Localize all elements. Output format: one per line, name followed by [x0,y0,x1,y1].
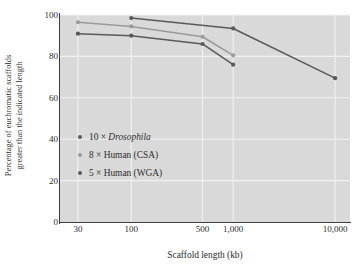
y-tick-label: 0 [32,217,58,227]
y-tick-label: 40 [32,134,58,144]
legend-item: 5 × Human (WGA) [78,164,228,182]
legend-marker-dot-icon [78,153,82,157]
y-tick-label: 20 [32,176,58,186]
x-axis-title: Scaffold length (kb) [60,250,350,260]
legend-item-label: 8 × Human (CSA) [89,150,158,160]
legend-item: 10 × Drosophila [78,128,228,146]
chart-figure: Percentage of euchromatic scaffolds grea… [0,0,359,272]
data-series-layer [60,15,350,222]
legend-item-label: 10 × Drosophila [89,132,151,142]
y-axis-title: Percentage of euchromatic scaffolds grea… [0,0,30,230]
x-tick-label: 100 [124,224,138,234]
y-axis-tick-labels: 020406080100 [28,0,58,272]
x-axis-tick-labels: 301005001,00010,000 [60,224,350,240]
chart-legend: 10 × Drosophila8 × Human (CSA)5 × Human … [78,128,228,182]
x-tick-label: 30 [73,224,82,234]
legend-item-label: 5 × Human (WGA) [89,168,162,178]
legend-marker-dot-icon [78,171,82,175]
x-tick-label: 10,000 [323,224,348,234]
y-tick-label: 80 [32,51,58,61]
y-tick-label: 60 [32,93,58,103]
x-tick-label: 1,000 [223,224,243,234]
x-tick-label: 500 [196,224,210,234]
legend-marker-dot-icon [78,135,82,139]
plot-area [60,15,350,222]
y-tick-label: 100 [32,10,58,20]
y-axis-title-line1: Percentage of euchromatic scaffolds [5,54,14,175]
y-axis-title-line2: greater than the indicated length [15,54,26,175]
legend-item: 8 × Human (CSA) [78,146,228,164]
